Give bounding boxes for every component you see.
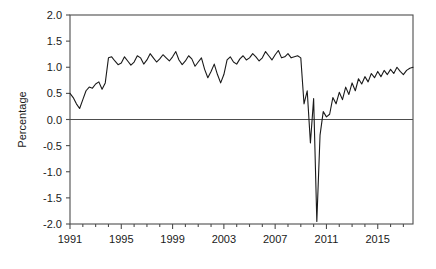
y-axis-tick-label: -2.0	[43, 218, 62, 230]
y-axis-tick-label: 1.0	[47, 61, 62, 73]
y-axis-tick-label: 1.5	[47, 35, 62, 47]
x-axis-tick-label: 2003	[212, 233, 236, 245]
x-axis-tick-label: 1995	[109, 233, 133, 245]
data-series-line	[70, 51, 413, 222]
chart-figure: -2.0-1.5-1.0-0.50.00.51.01.52.0199119951…	[0, 0, 436, 269]
y-axis-title: Percentage	[16, 91, 28, 147]
percentage-line-chart: -2.0-1.5-1.0-0.50.00.51.01.52.0199119951…	[0, 0, 436, 269]
y-axis-tick-label: -0.5	[43, 140, 62, 152]
x-axis-tick-label: 1991	[58, 233, 82, 245]
x-axis-tick-label: 2015	[365, 233, 389, 245]
y-axis-tick-label: 0.5	[47, 87, 62, 99]
x-axis-tick-label: 2011	[315, 233, 339, 245]
y-axis-tick-label: 0.0	[47, 114, 62, 126]
y-axis-tick-label: -1.0	[43, 166, 62, 178]
x-axis-tick-label: 2007	[263, 233, 287, 245]
y-axis-tick-label: 2.0	[47, 9, 62, 21]
x-axis-tick-label: 1999	[160, 233, 184, 245]
y-axis-tick-label: -1.5	[43, 192, 62, 204]
